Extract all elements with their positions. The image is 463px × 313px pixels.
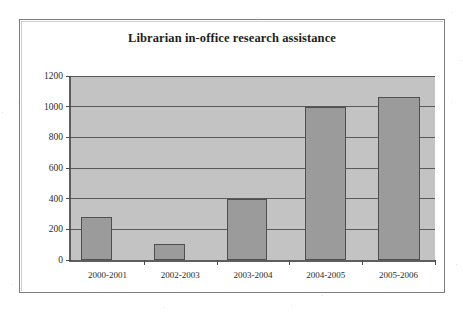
bar-2002-2003: [154, 244, 185, 260]
x-axis-tick: [217, 260, 218, 265]
y-axis-tick: [66, 106, 71, 107]
x-axis-tick: [144, 260, 145, 265]
y-axis-label: 600: [49, 163, 63, 173]
bar-2003-2004: [227, 199, 267, 260]
y-axis-label: 800: [49, 132, 63, 142]
gridline: [71, 76, 435, 77]
x-axis-label: 2003-2004: [234, 270, 273, 280]
y-axis-label: 0: [58, 255, 63, 265]
x-axis-tick: [362, 260, 363, 265]
y-axis-tick: [66, 76, 71, 77]
chart-frame: Librarian in-office research assistance …: [19, 19, 445, 293]
y-axis-tick: [66, 198, 71, 199]
y-axis-tick: [66, 260, 71, 261]
x-axis-label: 2000-2001: [88, 270, 127, 280]
y-axis-label: 200: [49, 224, 63, 234]
x-axis-label: 2005-2006: [379, 270, 418, 280]
x-axis-tick: [435, 260, 436, 265]
y-axis-label: 1000: [44, 102, 63, 112]
bar-2000-2001: [81, 217, 112, 260]
plot-area: 0200400600800100012002000-20012002-20032…: [69, 76, 435, 262]
bar-2005-2006: [378, 97, 420, 260]
chart-title: Librarian in-office research assistance: [20, 31, 444, 46]
y-axis-tick: [66, 137, 71, 138]
x-axis-tick: [289, 260, 290, 265]
x-axis-label: 2004-2005: [306, 270, 345, 280]
y-axis-tick: [66, 229, 71, 230]
y-axis-label: 1200: [44, 71, 63, 81]
y-axis-label: 400: [49, 194, 63, 204]
x-axis-label: 2002-2003: [161, 270, 200, 280]
bar-2004-2005: [305, 107, 346, 260]
y-axis-tick: [66, 168, 71, 169]
